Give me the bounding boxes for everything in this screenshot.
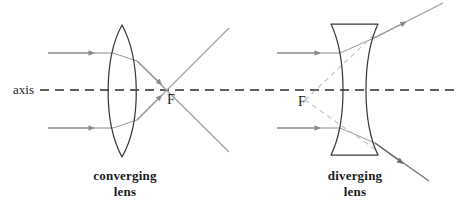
converging-panel (48, 25, 229, 157)
lens-diagram-figure: axis F F converging lens diverging lens (0, 0, 458, 209)
diverging-refracted-rays (374, 3, 443, 181)
caption-diverging-lens: diverging lens (295, 168, 415, 200)
focal-point-label-diverging: F (298, 94, 306, 110)
caption-converging-line1: converging (93, 168, 156, 183)
refracted-ray-lower-arrow (137, 97, 160, 120)
refracted-ray-lower-arrow (375, 143, 401, 162)
caption-diverging-line2: lens (295, 184, 415, 200)
converging-lens-outline (108, 25, 136, 157)
refracted-ray-upper-arrow (137, 61, 160, 83)
diverging-panel (277, 3, 443, 181)
caption-converging-line2: lens (65, 184, 185, 200)
refracted-ray-upper-arrow (374, 23, 404, 38)
focal-point-label-converging: F (167, 92, 175, 108)
diverging-virtual-rays (305, 33, 379, 152)
axis-label: axis (13, 82, 34, 98)
caption-diverging-line1: diverging (328, 168, 383, 183)
caption-converging-lens: converging lens (65, 168, 185, 200)
